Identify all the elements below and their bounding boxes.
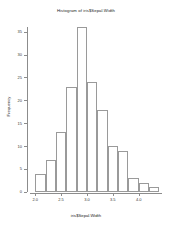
y-axis-tick-label: 5 bbox=[7, 166, 22, 171]
histogram-bar bbox=[108, 146, 118, 192]
histogram-plot: Histogram of iris$Sepal.Width Frequency … bbox=[0, 0, 172, 229]
histogram-bar bbox=[87, 82, 97, 192]
x-axis-tick-label: 4.0 bbox=[129, 197, 149, 202]
histogram-bar bbox=[97, 110, 107, 193]
y-axis-tick bbox=[24, 192, 27, 193]
y-axis-tick bbox=[24, 123, 27, 124]
y-axis-tick bbox=[24, 169, 27, 170]
histogram-bar bbox=[77, 27, 87, 192]
y-axis-tick-label: 20 bbox=[7, 98, 22, 103]
y-axis-tick bbox=[24, 32, 27, 33]
y-axis-tick-label: 15 bbox=[7, 121, 22, 126]
histogram-bar bbox=[139, 183, 149, 192]
histogram-bar bbox=[128, 178, 138, 192]
histogram-bar bbox=[56, 132, 66, 192]
histogram-bar bbox=[46, 160, 56, 192]
x-axis-label: iris$Sepal.Width bbox=[0, 213, 172, 218]
y-axis-tick bbox=[24, 55, 27, 56]
y-axis-tick-label: 35 bbox=[7, 29, 22, 34]
x-axis-tick bbox=[61, 193, 62, 196]
x-axis-tick bbox=[139, 193, 140, 196]
chart-title: Histogram of iris$Sepal.Width bbox=[0, 8, 172, 13]
histogram-bar bbox=[149, 187, 159, 192]
y-axis-tick-label: 0 bbox=[7, 189, 22, 194]
y-axis-tick bbox=[24, 146, 27, 147]
x-axis-tick-label: 3.5 bbox=[103, 197, 123, 202]
y-axis-tick bbox=[24, 100, 27, 101]
histogram-bar bbox=[118, 151, 128, 192]
histogram-bar bbox=[35, 174, 45, 192]
x-axis-tick bbox=[35, 193, 36, 196]
x-axis-tick-label: 2.5 bbox=[51, 197, 71, 202]
histogram-bar bbox=[66, 87, 76, 192]
y-axis-tick-label: 10 bbox=[7, 144, 22, 149]
x-axis-tick bbox=[87, 193, 88, 196]
y-axis-tick bbox=[24, 77, 27, 78]
x-axis-line bbox=[30, 193, 162, 194]
y-axis-tick-label: 25 bbox=[7, 75, 22, 80]
y-axis-line bbox=[27, 27, 28, 192]
plot-panel bbox=[30, 27, 162, 192]
y-axis-tick-label: 30 bbox=[7, 52, 22, 57]
x-axis-tick-label: 2.0 bbox=[25, 197, 45, 202]
x-axis-tick bbox=[113, 193, 114, 196]
x-axis-tick-label: 3.0 bbox=[77, 197, 97, 202]
